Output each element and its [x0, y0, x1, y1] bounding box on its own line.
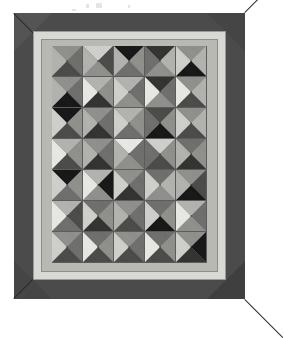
- tile-apex-point: [66, 60, 68, 62]
- tile-apex-point: [190, 184, 192, 186]
- tile-facet-left: [145, 46, 160, 76]
- tile-facet-left: [83, 232, 98, 262]
- tile-apex-point: [159, 91, 161, 93]
- tile-facet-left: [176, 77, 191, 107]
- tile-apex-point: [66, 153, 68, 155]
- pyramid-tile: [145, 232, 176, 263]
- tile-apex-point: [190, 60, 192, 62]
- tile-facet-left: [83, 201, 98, 231]
- pyramid-tile: [176, 170, 207, 201]
- tile-apex-point: [97, 215, 99, 217]
- tile-facet-left: [52, 139, 67, 169]
- pyramid-tile: [83, 201, 114, 232]
- pyramid-tile: [114, 108, 145, 139]
- tile-facet-left: [176, 232, 191, 262]
- pyramid-tile: [145, 46, 176, 77]
- tile-apex-point: [66, 215, 68, 217]
- pyramid-tile: [83, 139, 114, 170]
- tile-facet-left: [52, 232, 67, 262]
- tile-apex-point: [128, 122, 130, 124]
- tile-facet-left: [114, 232, 129, 262]
- pyramid-tile: [176, 46, 207, 77]
- tile-facet-left: [83, 139, 98, 169]
- tile-facet-left: [176, 201, 191, 231]
- frame-miter-line-top-right: [244, 0, 283, 13]
- pyramid-tile: [176, 232, 207, 263]
- tile-facet-left: [176, 170, 191, 200]
- pyramid-tile: [145, 108, 176, 139]
- scan-speck: [72, 9, 76, 11]
- tile-facet-left: [114, 139, 129, 169]
- tile-apex-point: [128, 215, 130, 217]
- tile-apex-point: [159, 153, 161, 155]
- tile-apex-point: [97, 60, 99, 62]
- frame-miter-line-bottom-right: [244, 299, 283, 338]
- pyramid-tile: [114, 139, 145, 170]
- tile-facet-left: [145, 108, 160, 138]
- pyramid-tile: [83, 46, 114, 77]
- tile-apex-point: [128, 60, 130, 62]
- tile-apex-point: [190, 215, 192, 217]
- tile-facet-left: [176, 108, 191, 138]
- tile-apex-point: [190, 153, 192, 155]
- pyramid-tile: [52, 170, 83, 201]
- pyramid-tile: [176, 139, 207, 170]
- tile-facet-left: [145, 77, 160, 107]
- pyramid-tile: [145, 201, 176, 232]
- tile-apex-point: [190, 246, 192, 248]
- pyramid-tile: [145, 170, 176, 201]
- tile-facet-left: [145, 201, 160, 231]
- pyramid-tile: [52, 108, 83, 139]
- tile-facet-left: [145, 170, 160, 200]
- tile-apex-point: [159, 215, 161, 217]
- pyramid-tile: [114, 170, 145, 201]
- tile-apex-point: [66, 91, 68, 93]
- tile-apex-point: [190, 91, 192, 93]
- pyramid-tile: [114, 201, 145, 232]
- pyramid-tile: [145, 139, 176, 170]
- tile-facet-left: [52, 46, 67, 76]
- tile-apex-point: [128, 91, 130, 93]
- tile-apex-point: [97, 153, 99, 155]
- tile-apex-point: [128, 184, 130, 186]
- pyramid-tile: [83, 108, 114, 139]
- pyramid-tile: [52, 139, 83, 170]
- scan-speck: [96, 3, 102, 8]
- tile-facet-left: [114, 108, 129, 138]
- tile-apex-point: [66, 184, 68, 186]
- tile-facet-left: [114, 46, 129, 76]
- pyramid-tile: [83, 170, 114, 201]
- tile-apex-point: [97, 122, 99, 124]
- tile-facet-left: [114, 201, 129, 231]
- tile-facet-left: [83, 108, 98, 138]
- tile-facet-left: [176, 46, 191, 76]
- tile-facet-left: [145, 232, 160, 262]
- pyramid-tile: [83, 77, 114, 108]
- tile-apex-point: [97, 246, 99, 248]
- pyramid-tile-grid: [52, 46, 207, 263]
- tile-apex-point: [128, 246, 130, 248]
- tile-facet-left: [52, 201, 67, 231]
- tile-facet-left: [145, 139, 160, 169]
- tile-apex-point: [66, 122, 68, 124]
- pyramid-tile: [145, 77, 176, 108]
- pyramid-tile: [52, 201, 83, 232]
- tile-facet-left: [114, 170, 129, 200]
- tile-facet-left: [52, 170, 67, 200]
- pyramid-tile: [52, 232, 83, 263]
- pyramid-tile: [52, 77, 83, 108]
- tile-facet-left: [114, 77, 129, 107]
- tile-facet-left: [83, 46, 98, 76]
- tile-apex-point: [97, 91, 99, 93]
- tile-apex-point: [66, 246, 68, 248]
- tile-facet-left: [83, 77, 98, 107]
- pyramid-tile: [114, 46, 145, 77]
- tile-apex-point: [128, 153, 130, 155]
- tile-apex-point: [97, 184, 99, 186]
- scan-speck: [128, 5, 130, 8]
- tile-apex-point: [159, 184, 161, 186]
- tile-facet-left: [176, 139, 191, 169]
- pyramid-tile: [114, 232, 145, 263]
- pyramid-tile: [52, 46, 83, 77]
